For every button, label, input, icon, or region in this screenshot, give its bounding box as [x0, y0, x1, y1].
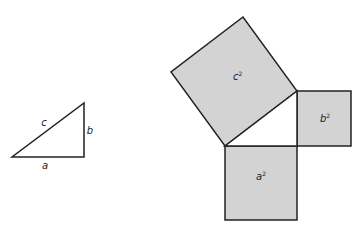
- pythagorean-diagram: a b c c2 b2 a2: [0, 0, 363, 231]
- right-triangle: a b c: [12, 103, 93, 171]
- square-a: [225, 146, 297, 220]
- squares-figure: c2 b2 a2: [171, 17, 351, 220]
- side-c-label: c: [41, 117, 47, 128]
- side-b-label: b: [87, 125, 93, 136]
- triangle-shape: [12, 103, 84, 157]
- side-a-label: a: [42, 160, 48, 171]
